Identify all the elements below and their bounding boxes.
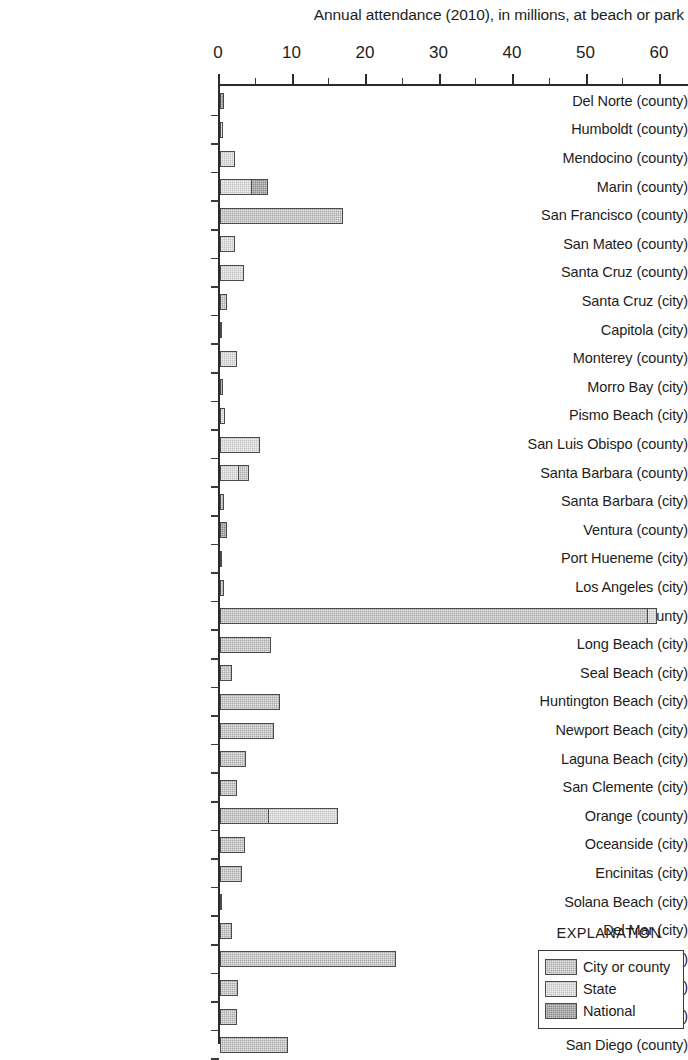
bar[interactable] xyxy=(220,408,225,424)
bar[interactable] xyxy=(220,923,232,939)
x-tick-label: 0 xyxy=(213,43,222,63)
category-label: Long Beach (city) xyxy=(480,636,688,652)
y-tick xyxy=(211,172,219,174)
category-label: Solana Beach (city) xyxy=(480,894,688,910)
bar-segment-state xyxy=(220,465,239,481)
bar-segment-city xyxy=(220,1037,288,1053)
bar[interactable] xyxy=(220,637,271,653)
bar[interactable] xyxy=(220,1037,288,1053)
x-tick-label: 40 xyxy=(503,43,522,63)
bar-segment-city xyxy=(220,637,271,653)
bar-segment-city xyxy=(220,580,224,596)
bar[interactable] xyxy=(220,751,246,767)
bar[interactable] xyxy=(220,437,260,453)
bar-segment-national xyxy=(220,522,227,538)
bar[interactable] xyxy=(220,780,237,796)
category-label: Santa Barbara (city) xyxy=(480,493,688,509)
y-tick xyxy=(211,200,219,202)
bar[interactable] xyxy=(220,580,224,596)
bar[interactable] xyxy=(220,236,235,252)
bar[interactable] xyxy=(220,894,222,910)
y-tick xyxy=(211,887,219,889)
category-label: Santa Cruz (city) xyxy=(480,293,688,309)
bar[interactable] xyxy=(220,322,222,338)
y-tick xyxy=(211,858,219,860)
bar[interactable] xyxy=(220,494,224,510)
legend-swatch-city xyxy=(545,959,577,975)
legend-title: EXPLANATION xyxy=(534,925,684,941)
bar[interactable] xyxy=(220,465,250,481)
y-tick xyxy=(211,258,219,260)
y-tick xyxy=(211,343,219,345)
category-label: Morro Bay (city) xyxy=(480,379,688,395)
category-label: Laguna Beach (city) xyxy=(480,751,688,767)
y-tick xyxy=(211,1030,219,1032)
y-tick xyxy=(211,601,219,603)
legend-swatch-national xyxy=(545,1003,577,1019)
bar-segment-city xyxy=(220,723,274,739)
y-tick xyxy=(211,315,219,317)
bar-segment-city xyxy=(220,694,280,710)
bar[interactable] xyxy=(220,122,223,138)
legend-box: City or countyStateNational xyxy=(538,950,684,1029)
x-tick-label: 50 xyxy=(576,43,595,63)
x-axis-line xyxy=(218,84,688,86)
bar-segment-state xyxy=(220,408,225,424)
bar[interactable] xyxy=(220,980,238,996)
bar[interactable] xyxy=(220,265,244,281)
category-label: San Mateo (county) xyxy=(480,236,688,252)
bar-segment-state xyxy=(268,808,338,824)
bar[interactable] xyxy=(220,665,232,681)
bar-segment-city xyxy=(220,494,224,510)
bar[interactable] xyxy=(220,951,396,967)
bar[interactable] xyxy=(220,208,343,224)
bar[interactable] xyxy=(220,522,227,538)
y-tick xyxy=(211,944,219,946)
bar-segment-city xyxy=(220,980,238,996)
bar[interactable] xyxy=(220,808,339,824)
bar-segment-city xyxy=(220,294,227,310)
bar[interactable] xyxy=(220,93,224,109)
bar-segment-city xyxy=(220,808,269,824)
legend-item[interactable]: City or county xyxy=(545,956,677,978)
bar[interactable] xyxy=(220,351,237,367)
bar[interactable] xyxy=(220,551,222,567)
y-tick xyxy=(211,429,219,431)
y-tick xyxy=(211,629,219,631)
legend-item[interactable]: State xyxy=(545,978,677,1000)
category-label: Seal Beach (city) xyxy=(480,665,688,681)
x-tick-label: 30 xyxy=(429,43,448,63)
bar[interactable] xyxy=(220,294,227,310)
category-label: San Francisco (county) xyxy=(480,207,688,223)
y-tick xyxy=(211,486,219,488)
legend-item[interactable]: National xyxy=(545,1000,677,1022)
category-label: Mendocino (county) xyxy=(480,150,688,166)
y-tick xyxy=(211,744,219,746)
category-label: Port Hueneme (city) xyxy=(480,550,688,566)
bar[interactable] xyxy=(220,1009,237,1025)
bar-segment-city xyxy=(220,951,396,967)
bar[interactable] xyxy=(220,837,245,853)
bar[interactable] xyxy=(220,866,242,882)
y-tick xyxy=(211,458,219,460)
category-label: Del Norte (county) xyxy=(480,93,688,109)
bar[interactable] xyxy=(220,151,235,167)
category-label: Capitola (city) xyxy=(480,322,688,338)
bar[interactable] xyxy=(220,179,269,195)
bar[interactable] xyxy=(220,694,280,710)
bar[interactable] xyxy=(220,379,223,395)
x-tick-label: 60 xyxy=(650,43,669,63)
bar-segment-city xyxy=(220,208,343,224)
bar-segment-national xyxy=(220,379,223,395)
bar-segment-state xyxy=(220,351,237,367)
category-label: San Clemente (city) xyxy=(480,779,688,795)
bar-segment-city xyxy=(238,465,249,481)
x-tick-label: 20 xyxy=(356,43,375,63)
category-label: Newport Beach (city) xyxy=(480,722,688,738)
bar[interactable] xyxy=(220,608,658,624)
y-tick xyxy=(211,286,219,288)
x-tick-label: 10 xyxy=(282,43,301,63)
category-label: San Diego (county) xyxy=(480,1037,688,1053)
bar[interactable] xyxy=(220,723,274,739)
